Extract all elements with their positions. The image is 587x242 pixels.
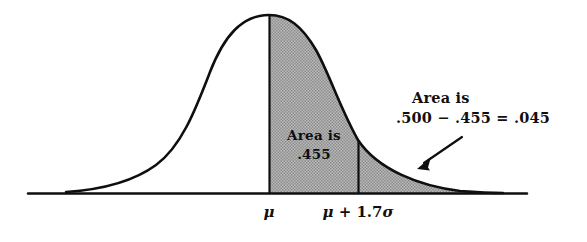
inner-area-annotation: Area is .455 — [274, 128, 354, 162]
tail-area-annotation: Area is .500 − .455 = .045 — [396, 90, 550, 126]
normal-curve-figure: Area is .455 Area is .500 − .455 = .045 … — [0, 0, 587, 242]
axis-tick-operator-coefficient: + 1.7 — [333, 203, 382, 221]
inner-area-annotation-line2: .455 — [274, 147, 354, 162]
tail-area-annotation-line1: Area is — [396, 90, 550, 106]
axis-tick-label-mu-plus-sigma: μ + 1.7σ — [308, 203, 408, 221]
axis-tick-mu-symbol: μ — [322, 203, 333, 221]
axis-tick-sigma-symbol: σ — [383, 203, 394, 221]
tail-pointer-arrow — [417, 137, 462, 171]
inner-area-annotation-line1: Area is — [274, 128, 354, 143]
tail-area-annotation-line2: .500 − .455 = .045 — [396, 110, 550, 126]
axis-tick-label-mu: μ — [249, 203, 289, 221]
